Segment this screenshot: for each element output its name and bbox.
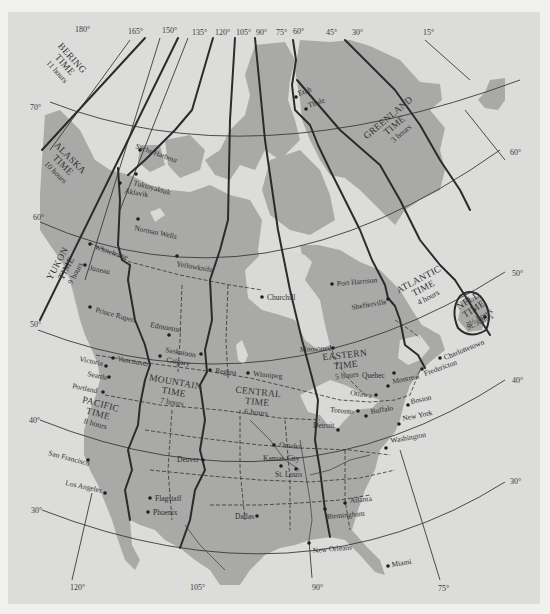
city-dot-icon — [158, 354, 162, 358]
longitude-label: 75° — [438, 584, 449, 593]
city-dot-icon — [101, 390, 105, 394]
city-dot-icon — [386, 564, 390, 568]
city-dot-icon — [304, 107, 308, 111]
latitude-label: 50° — [512, 269, 523, 278]
longitude-label: 105° — [190, 583, 205, 592]
city-dot-icon — [364, 414, 368, 418]
city-dot-icon — [374, 393, 378, 397]
city-name: Flagstaff — [155, 494, 182, 503]
city-dot-icon — [104, 364, 108, 368]
latitude-label: 50° — [30, 320, 41, 329]
longitude-label: 30° — [352, 28, 363, 37]
city-dot-icon — [356, 409, 360, 413]
city-dot-icon — [384, 446, 388, 450]
city-dot-icon — [208, 368, 212, 372]
city-dot-icon — [146, 510, 150, 514]
city-dot-icon — [336, 428, 340, 432]
longitude-label: 165° — [128, 27, 143, 36]
longitude-label: 150° — [162, 26, 177, 35]
city-dot-icon — [136, 217, 140, 221]
longitude-label: 75° — [276, 28, 287, 37]
latitude-label: 60° — [33, 213, 44, 222]
city-dot-icon — [118, 181, 122, 185]
longitude-label: 120° — [70, 583, 85, 592]
city-dot-icon — [201, 458, 205, 462]
city-dot-icon — [323, 507, 327, 511]
city-marker: Moosonee — [300, 343, 335, 354]
time-zone-map: 180°165°150°135°120°105°90°75°60°45°30°1… — [0, 0, 550, 614]
longitude-label: 105° — [236, 28, 251, 37]
city-dot-icon — [246, 371, 250, 375]
city-dot-icon — [167, 333, 171, 337]
city-name: Churchill — [267, 293, 295, 302]
city-dot-icon — [134, 172, 138, 176]
city-dot-icon — [386, 297, 390, 301]
city-name: St. Louis — [275, 470, 302, 479]
city-dot-icon — [148, 496, 152, 500]
city-dot-icon — [175, 254, 179, 258]
city-name: Dallas — [235, 512, 254, 521]
city-dot-icon — [83, 263, 87, 267]
city-dot-icon — [88, 305, 92, 309]
latitude-label: 30° — [31, 506, 42, 515]
latitude-label: 40° — [29, 416, 40, 425]
longitude-label: 180° — [75, 25, 90, 34]
city-dot-icon — [255, 514, 259, 518]
longitude-label: 90° — [312, 583, 323, 592]
longitude-label: 60° — [293, 27, 304, 36]
city-name: Quebec — [362, 371, 386, 380]
city-dot-icon — [330, 282, 334, 286]
city-dot-icon — [406, 403, 410, 407]
city-dot-icon — [343, 501, 347, 505]
city-dot-icon — [111, 356, 115, 360]
latitude-label: 70° — [30, 103, 41, 112]
city-dot-icon — [199, 352, 203, 356]
city-dot-icon — [331, 346, 335, 350]
city-dot-icon — [386, 384, 390, 388]
city-dot-icon — [88, 242, 92, 246]
city-dot-icon — [272, 443, 276, 447]
city-dot-icon — [260, 295, 264, 299]
latitude-label: 30° — [510, 477, 521, 486]
city-name: Phoenix — [153, 508, 178, 517]
city-dot-icon — [279, 464, 283, 468]
city-dot-icon — [103, 491, 107, 495]
city-name: Moosonee — [300, 343, 332, 354]
city-dot-icon — [438, 356, 442, 360]
longitude-label: 15° — [423, 28, 434, 37]
longitude-label: 45° — [326, 28, 337, 37]
longitude-label: 120° — [215, 28, 230, 37]
latitude-label: 60° — [510, 148, 521, 157]
city-dot-icon — [307, 541, 311, 545]
city-dot-icon — [392, 371, 396, 375]
city-name: Denver — [177, 455, 200, 464]
longitude-label: 135° — [192, 28, 207, 37]
city-dot-icon — [397, 422, 401, 426]
city-dot-icon — [294, 95, 298, 99]
latitude-label: 40° — [512, 376, 523, 385]
city-name: Regina — [215, 366, 238, 377]
city-name: Kansas City — [263, 454, 300, 463]
city-name: Detroit — [313, 421, 335, 430]
longitude-label: 90° — [256, 28, 267, 37]
